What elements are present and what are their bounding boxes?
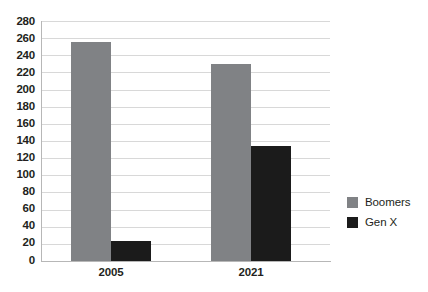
y-axis-line <box>41 21 42 262</box>
legend-item-genx[interactable]: Gen X <box>347 212 410 232</box>
y-tick-label: 0 <box>0 255 35 267</box>
legend-label-boomers: Boomers <box>365 196 410 208</box>
gridline <box>41 38 330 39</box>
y-tick-label: 200 <box>0 84 35 96</box>
bar-genx-2005[interactable] <box>111 241 151 261</box>
legend-item-boomers[interactable]: Boomers <box>347 192 410 212</box>
bar-boomers-2005[interactable] <box>71 42 111 261</box>
x-axis-label-2005: 2005 <box>71 266 151 280</box>
legend-swatch-genx-icon <box>347 217 358 228</box>
x-axis-line <box>41 261 331 262</box>
bar-genx-2021[interactable] <box>251 146 291 261</box>
y-tick-label: 260 <box>0 33 35 45</box>
y-tick-label: 160 <box>0 118 35 130</box>
y-tick-label: 140 <box>0 135 35 147</box>
chart-legend: Boomers Gen X <box>347 192 410 232</box>
x-axis-label-2021: 2021 <box>211 266 291 280</box>
legend-label-genx: Gen X <box>365 216 397 228</box>
y-tick-label: 120 <box>0 152 35 164</box>
y-tick-label: 40 <box>0 220 35 232</box>
y-tick-label: 280 <box>0 16 35 28</box>
y-tick-label: 60 <box>0 203 35 215</box>
y-tick-label: 180 <box>0 101 35 113</box>
y-tick-label: 80 <box>0 186 35 198</box>
plot-area <box>41 21 330 261</box>
bar-boomers-2021[interactable] <box>211 64 251 261</box>
legend-swatch-boomers-icon <box>347 197 358 208</box>
y-tick-label: 240 <box>0 50 35 62</box>
y-tick-label: 20 <box>0 237 35 249</box>
bar-chart: 280 260 240 220 200 180 160 140 120 100 … <box>0 0 428 292</box>
y-tick-label: 220 <box>0 67 35 79</box>
gridline <box>41 21 330 22</box>
y-tick-label: 100 <box>0 169 35 181</box>
